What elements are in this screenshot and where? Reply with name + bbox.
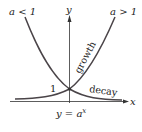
formula-exponent: x	[82, 107, 86, 115]
growth-condition-label: a > 1	[110, 6, 137, 17]
x-axis-label: x	[130, 96, 136, 107]
formula-label: y = ax	[55, 107, 86, 119]
exponential-diagram: a < 1 a > 1 y x 1 growth decay y = ax	[0, 0, 142, 132]
y-axis-arrow-icon	[68, 15, 72, 22]
intercept-label: 1	[50, 83, 56, 94]
intercept-point	[68, 87, 71, 90]
formula-base: y = a	[55, 108, 82, 119]
y-axis-label: y	[65, 4, 72, 15]
decay-condition-label: a < 1	[9, 6, 36, 17]
x-axis-arrow-icon	[123, 100, 129, 104]
decay-label: decay	[89, 83, 119, 98]
growth-label: growth	[72, 39, 98, 75]
